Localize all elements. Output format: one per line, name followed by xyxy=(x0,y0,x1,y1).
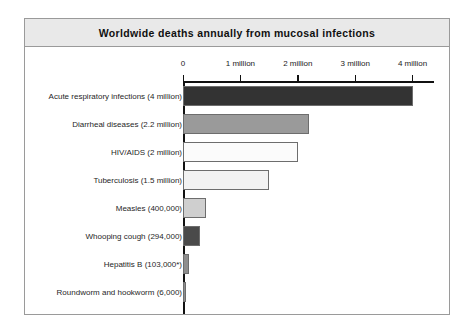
x-tick-label-4: 4 million xyxy=(398,59,427,68)
x-tick-mark-2 xyxy=(297,75,298,82)
bar-row: Acute respiratory infections (4 million) xyxy=(25,82,449,110)
bar-category-label: Hepatitis B (103,000*) xyxy=(104,260,182,269)
x-tick-label-1: 1 million xyxy=(226,59,255,68)
bar-row: Hepatitis B (103,000*) xyxy=(25,250,449,278)
bar-category-label: Roundworm and hookworm (6,000) xyxy=(57,288,182,297)
x-tick-mark-0 xyxy=(183,75,184,82)
bar-row: Tuberculosis (1.5 million) xyxy=(25,166,449,194)
bar-row: Whooping cough (294,000) xyxy=(25,222,449,250)
bar xyxy=(183,198,206,218)
chart-figure: Worldwide deaths annually from mucosal i… xyxy=(24,18,450,315)
x-tick-mark-3 xyxy=(355,75,356,82)
bar xyxy=(183,86,413,106)
x-tick-label-0: 0 xyxy=(181,59,185,68)
x-tick-label-2: 2 million xyxy=(283,59,312,68)
x-tick-label-3: 3 million xyxy=(341,59,370,68)
plot-area: 0 1 million 2 million 3 million 4 millio… xyxy=(25,48,449,314)
bar-category-label: Tuberculosis (1.5 million) xyxy=(93,176,182,185)
bar-row: Diarrheal diseases (2.2 million) xyxy=(25,110,449,138)
x-tick-mark-1 xyxy=(240,75,241,82)
bar-row: Roundworm and hookworm (6,000) xyxy=(25,278,449,306)
bar-category-label: HIV/AIDS (2 million) xyxy=(111,148,182,157)
bar xyxy=(183,114,309,134)
bar-category-label: Whooping cough (294,000) xyxy=(85,232,182,241)
bar xyxy=(183,282,186,302)
bar xyxy=(183,226,200,246)
bar xyxy=(183,170,269,190)
bar xyxy=(183,254,189,274)
page-title: Worldwide deaths annually from mucosal i… xyxy=(99,27,376,39)
bar xyxy=(183,142,298,162)
bar-category-label: Diarrheal diseases (2.2 million) xyxy=(72,120,182,129)
bar-series: Acute respiratory infections (4 million)… xyxy=(25,82,449,314)
bar-category-label: Acute respiratory infections (4 million) xyxy=(49,92,182,101)
bar-row: HIV/AIDS (2 million) xyxy=(25,138,449,166)
bar-row: Measles (400,000) xyxy=(25,194,449,222)
x-axis: 0 1 million 2 million 3 million 4 millio… xyxy=(25,48,449,84)
x-tick-mark-4 xyxy=(412,75,413,82)
chart-title-bar: Worldwide deaths annually from mucosal i… xyxy=(25,19,449,47)
bar-category-label: Measles (400,000) xyxy=(116,204,182,213)
